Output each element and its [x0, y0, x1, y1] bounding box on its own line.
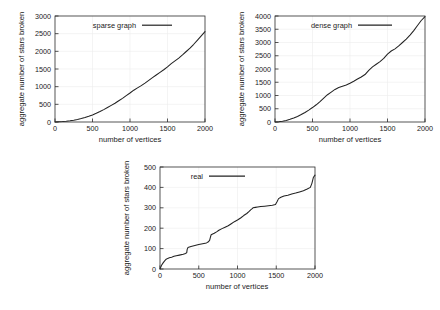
- dense-graph-svg: 05001000150020002500300035004000 0500100…: [220, 0, 440, 155]
- legend-label-dense-graph: dense graph: [311, 21, 352, 30]
- tick-label-x: 2000: [417, 124, 433, 133]
- tick-label-y: 500: [144, 163, 156, 172]
- legend-label-sparse-graph: sparse graph: [93, 21, 136, 30]
- tick-label-x: 1000: [122, 124, 138, 133]
- tick-label-x: 2000: [197, 124, 213, 133]
- y-axis-title: aggregate number of stars broken: [17, 12, 26, 126]
- tick-label-y: 2500: [255, 51, 271, 60]
- chart-panel-real: 0100200300400500 0500100015002000 real n…: [105, 155, 335, 310]
- legend-label-real: real: [191, 172, 204, 181]
- tick-label-x: 1000: [342, 124, 358, 133]
- tick-label-y: 100: [144, 244, 156, 253]
- tick-labels-x: 0500100015002000: [158, 271, 323, 280]
- tick-label-y: 0: [152, 265, 156, 274]
- tick-label-y: 1500: [35, 65, 51, 74]
- tick-labels-y: 050010001500200025003000: [35, 12, 51, 127]
- tick-label-y: 400: [144, 183, 156, 192]
- sparse-graph-svg: 050010001500200025003000 050010001500200…: [0, 0, 220, 155]
- tick-label-x: 1500: [380, 124, 396, 133]
- tick-label-y: 1000: [255, 91, 271, 100]
- tick-label-y: 4000: [255, 12, 271, 21]
- tick-label-x: 2000: [307, 271, 323, 280]
- y-axis-title: aggregate number of stars broken: [122, 161, 131, 275]
- tick-labels-x: 0500100015002000: [53, 124, 213, 133]
- real-graph-svg: 0100200300400500 0500100015002000 real n…: [105, 155, 335, 310]
- tick-labels-y: 05001000150020002500300035004000: [255, 12, 271, 127]
- plot-area-real: 0100200300400500 0500100015002000: [144, 163, 323, 280]
- tick-label-x: 0: [53, 124, 57, 133]
- x-axis-title: number of vertices: [99, 135, 162, 144]
- tick-label-y: 2500: [35, 29, 51, 38]
- tick-label-y: 200: [144, 224, 156, 233]
- tick-label-x: 1500: [160, 124, 176, 133]
- tick-label-y: 3500: [255, 25, 271, 34]
- x-axis-title: number of vertices: [319, 135, 382, 144]
- tick-label-x: 1500: [268, 271, 284, 280]
- tick-label-x: 0: [273, 124, 277, 133]
- tick-label-x: 0: [158, 271, 162, 280]
- tick-label-x: 500: [307, 124, 319, 133]
- x-axis-title: number of vertices: [206, 282, 269, 291]
- tick-label-x: 1000: [230, 271, 246, 280]
- tick-labels-x: 0500100015002000: [273, 124, 433, 133]
- tick-label-y: 3000: [35, 12, 51, 21]
- tick-label-y: 0: [267, 118, 271, 127]
- tick-label-y: 0: [47, 118, 51, 127]
- tick-label-y: 1500: [255, 78, 271, 87]
- tick-label-y: 500: [39, 100, 51, 109]
- y-axis-title: aggregate number of stars broken: [237, 12, 246, 126]
- tick-label-y: 500: [259, 104, 271, 113]
- tick-label-y: 300: [144, 203, 156, 212]
- tick-label-x: 500: [193, 271, 205, 280]
- chart-panel-sparse: 050010001500200025003000 050010001500200…: [0, 0, 220, 155]
- tick-label-y: 2000: [255, 65, 271, 74]
- tick-labels-y: 0100200300400500: [144, 163, 156, 274]
- tick-label-y: 3000: [255, 38, 271, 47]
- tick-label-y: 2000: [35, 47, 51, 56]
- tick-label-x: 500: [87, 124, 99, 133]
- chart-panel-dense: 05001000150020002500300035004000 0500100…: [220, 0, 440, 155]
- tick-label-y: 1000: [35, 82, 51, 91]
